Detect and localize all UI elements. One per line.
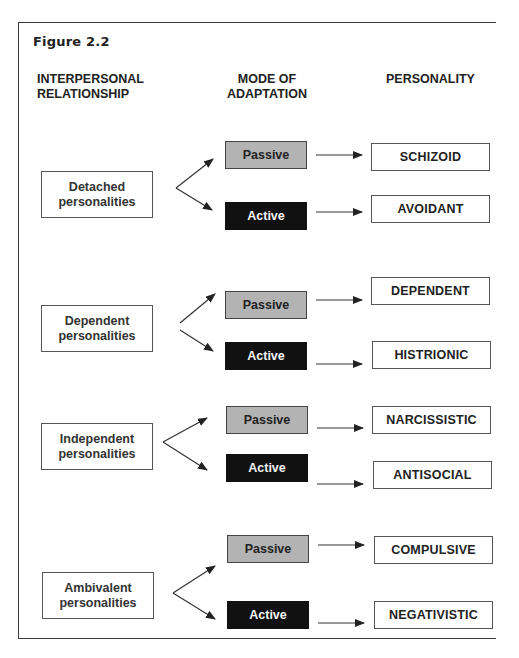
personality-box-antisocial: ANTISOCIAL — [373, 461, 492, 489]
fork-arrow-down — [163, 442, 207, 470]
personality-box-avoidant: AVOIDANT — [371, 195, 490, 223]
personality-box-narcissistic: NARCISSISTIC — [372, 406, 491, 434]
relationship-box-ambivalent: Ambivalent personalities — [42, 572, 154, 619]
relationship-label: Independent — [58, 432, 135, 447]
relationship-label: personalities — [58, 329, 135, 344]
personality-box-dependent: DEPENDENT — [371, 277, 490, 305]
mode-active-box: Active — [225, 202, 307, 230]
relationship-box-detached: Detached personalities — [41, 171, 153, 218]
mode-active-box: Active — [225, 342, 307, 370]
fork-arrow-up — [163, 418, 207, 442]
mode-passive-box: Passive — [225, 291, 307, 319]
mode-passive-box: Passive — [227, 535, 309, 563]
fork-arrow-down — [173, 593, 215, 619]
relationship-label: personalities — [58, 447, 135, 462]
mode-passive-box: Passive — [225, 141, 307, 169]
relationship-label: personalities — [58, 195, 135, 210]
relationship-label: personalities — [59, 596, 136, 611]
mode-active-box: Active — [227, 601, 309, 629]
relationship-label: Detached — [58, 180, 135, 195]
personality-box-schizoid: SCHIZOID — [371, 143, 490, 171]
personality-box-negativistic: NEGATIVISTIC — [374, 601, 493, 629]
mode-passive-box: Passive — [226, 406, 308, 434]
relationship-box-independent: Independent personalities — [41, 423, 153, 470]
relationship-box-dependent: Dependent personalities — [41, 305, 153, 352]
relationship-label: Ambivalent — [59, 581, 136, 596]
relationship-label: Dependent — [58, 314, 135, 329]
personality-box-histrionic: HISTRIONIC — [372, 341, 491, 369]
fork-arrow-down — [180, 330, 213, 351]
personality-box-compulsive: COMPULSIVE — [374, 536, 493, 564]
mode-active-box: Active — [226, 454, 308, 482]
fork-arrow-down — [176, 188, 212, 210]
fork-arrow-up — [176, 159, 213, 188]
fork-arrow-up — [173, 566, 215, 593]
fork-arrow-up — [180, 294, 215, 323]
